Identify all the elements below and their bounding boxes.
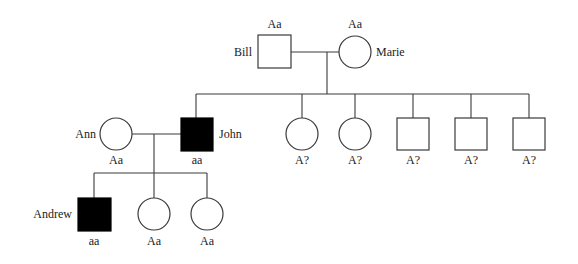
ann-name: Ann xyxy=(75,127,96,141)
andrew-affected-male-symbol xyxy=(78,198,111,231)
marie-genotype: Aa xyxy=(348,17,363,31)
john-name: John xyxy=(219,127,242,141)
andrew-genotype: aa xyxy=(89,234,100,248)
daughter-2-symbol xyxy=(191,198,223,230)
marie-name: Marie xyxy=(376,45,405,59)
brother-3-genotype: A? xyxy=(522,153,536,167)
pedigree-diagram: Aa Bill Aa Marie Ann Aa John aa A? A? A?… xyxy=(0,0,578,264)
brother-2-symbol xyxy=(455,118,487,150)
daughter-2-genotype: Aa xyxy=(200,234,215,248)
bill-male-symbol xyxy=(258,35,291,68)
daughter-1-genotype: Aa xyxy=(147,234,162,248)
bill-name: Bill xyxy=(234,45,253,59)
daughter-1-symbol xyxy=(138,198,170,230)
brother-1-genotype: A? xyxy=(406,153,420,167)
john-genotype: aa xyxy=(192,153,203,167)
marie-female-symbol xyxy=(339,36,371,68)
john-affected-male-symbol xyxy=(181,118,213,151)
sister-1-genotype: A? xyxy=(295,153,309,167)
sister-2-symbol xyxy=(339,118,371,150)
ann-genotype: Aa xyxy=(109,153,124,167)
andrew-name: Andrew xyxy=(33,207,72,221)
sister-1-symbol xyxy=(286,118,318,150)
brother-1-symbol xyxy=(397,118,429,150)
sister-2-genotype: A? xyxy=(348,153,362,167)
ann-female-symbol xyxy=(100,118,132,150)
brother-3-symbol xyxy=(513,118,545,150)
brother-2-genotype: A? xyxy=(464,153,478,167)
bill-genotype: Aa xyxy=(268,17,283,31)
